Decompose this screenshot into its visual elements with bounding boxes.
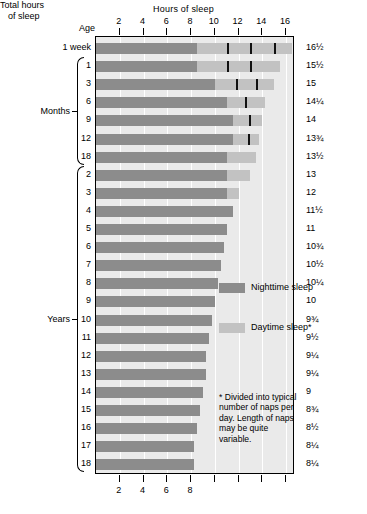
bar-row [96, 206, 293, 217]
total-hours-label: 14¼ [306, 97, 324, 106]
x-axis-tick-top [166, 28, 167, 35]
nap-divider-marker [227, 61, 229, 72]
bar-row [96, 61, 293, 72]
chart-title: Hours of sleep [0, 5, 367, 14]
bar-segment-nighttime [96, 115, 233, 126]
bar-segment-nighttime [96, 278, 218, 289]
bar-segment-nighttime [96, 423, 197, 434]
legend-label-nighttime: Nighttime sleep [251, 282, 317, 292]
bar-row [96, 333, 293, 344]
bar-segment-daytime [233, 115, 263, 126]
x-axis-tick-label-top: 12 [228, 16, 248, 26]
bar-segment-nighttime [96, 260, 221, 271]
bar-row [96, 188, 293, 199]
bar-row [96, 152, 293, 163]
bar-row [96, 224, 293, 235]
bar-row [96, 459, 293, 470]
bar-segment-nighttime [96, 369, 206, 380]
total-hours-label: 16½ [306, 43, 324, 52]
bar-row [96, 97, 293, 108]
bar-segment-nighttime [96, 387, 203, 398]
x-axis-tick-label-bottom: 4 [133, 485, 153, 495]
x-axis-tick-label-top: 2 [109, 16, 129, 26]
total-hours-label: 9¼ [306, 369, 319, 378]
x-axis-tick-top [119, 28, 120, 35]
total-hours-label: 8¾ [306, 405, 319, 414]
total-hours-label: 9½ [306, 333, 319, 342]
bar-row [96, 115, 293, 126]
x-axis-tick-top [261, 28, 262, 35]
bar-segment-nighttime [96, 97, 227, 108]
x-axis-tick-label-top: 8 [180, 16, 200, 26]
total-hours-label: 13¾ [306, 134, 324, 143]
bar-row [96, 242, 293, 253]
bar-segment-daytime [197, 61, 280, 72]
age-tick-label: 1 week [31, 43, 91, 52]
legend-label-daytime: Daytime sleep* [251, 322, 317, 332]
footnote-text: * Divided into typical number of naps pe… [219, 392, 301, 444]
group-bracket-notch [72, 319, 77, 320]
total-hours-label: 13 [306, 170, 316, 179]
x-axis-tick-label-bottom: 8 [180, 485, 200, 495]
bar-row [96, 296, 293, 307]
x-axis-tick-label-top: 6 [156, 16, 176, 26]
nap-divider-marker [250, 43, 252, 54]
sleep-chart: Hours of sleep Age Total hours of sleep … [0, 0, 367, 514]
x-axis-tick-top [190, 28, 191, 35]
x-axis-tick-bottom [143, 475, 144, 482]
total-hours-label: 8¼ [306, 441, 319, 450]
legend-swatch-nighttime [219, 283, 245, 293]
nap-divider-marker [245, 97, 247, 108]
bar-segment-nighttime [96, 333, 209, 344]
x-axis-tick-label-bottom: 6 [156, 485, 176, 495]
nap-divider-marker [256, 79, 258, 90]
bar-segment-nighttime [96, 152, 227, 163]
x-axis-tick-label-bottom: 2 [109, 485, 129, 495]
x-axis-tick-top [238, 28, 239, 35]
total-hours-label: 9¼ [306, 351, 319, 360]
nap-divider-marker [227, 43, 229, 54]
x-axis-tick-bottom [238, 475, 239, 482]
total-hours-label: 10½ [306, 260, 324, 269]
group-label: Years [14, 315, 70, 324]
bar-segment-nighttime [96, 242, 224, 253]
bar-segment-daytime [215, 79, 274, 90]
total-hours-label: 10 [306, 296, 316, 305]
nap-divider-marker [236, 79, 238, 90]
bar-segment-nighttime [96, 296, 215, 307]
total-hours-label: 15½ [306, 61, 324, 70]
bar-row [96, 79, 293, 90]
bar-segment-nighttime [96, 43, 197, 54]
nap-divider-marker [249, 115, 251, 126]
bar-segment-nighttime [96, 405, 200, 416]
bar-segment-nighttime [96, 79, 215, 90]
total-hours-label: 8¼ [306, 459, 319, 468]
nap-divider-marker [274, 43, 276, 54]
bar-segment-nighttime [96, 206, 233, 217]
x-axis-tick-top [214, 28, 215, 35]
bar-segment-nighttime [96, 459, 194, 470]
group-bracket [77, 166, 84, 473]
bar-row [96, 43, 293, 54]
bar-segment-nighttime [96, 315, 212, 326]
bar-segment-daytime [197, 43, 292, 54]
total-hours-label: 10¾ [306, 242, 324, 251]
x-axis-tick-label-top: 10 [204, 16, 224, 26]
bar-segment-nighttime [96, 61, 197, 72]
x-axis-tick-label-top: 4 [133, 16, 153, 26]
nap-divider-marker [250, 61, 252, 72]
bar-segment-nighttime [96, 134, 233, 145]
bar-segment-daytime [227, 188, 239, 199]
x-axis-tick-bottom [190, 475, 191, 482]
group-label: Months [14, 107, 70, 116]
bar-row [96, 260, 293, 271]
x-axis-tick-label-top: 14 [251, 16, 271, 26]
bar-segment-daytime [227, 170, 251, 181]
x-axis-tick-top [285, 28, 286, 35]
bar-row [96, 134, 293, 145]
total-hours-label: 11 [306, 224, 315, 233]
bar-segment-daytime [227, 152, 257, 163]
x-axis-tick-bottom [285, 475, 286, 482]
nap-divider-marker [248, 134, 250, 145]
y-axis-label: Age [79, 24, 95, 33]
